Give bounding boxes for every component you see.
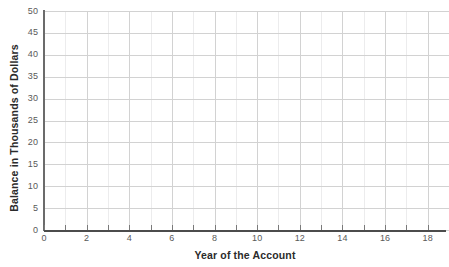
x-axis-tick-label: 8 — [203, 234, 227, 243]
x-axis-tick-label: 4 — [117, 234, 141, 243]
x-axis-tickmark — [342, 225, 343, 230]
y-axis-tick-label: 50 — [14, 7, 38, 16]
x-axis-tick-label: 14 — [330, 234, 354, 243]
x-axis-line — [44, 230, 446, 232]
x-axis-tickmark — [87, 225, 88, 230]
x-axis-tickmark — [428, 225, 429, 230]
x-axis-tickmark — [364, 225, 365, 230]
data-series-layer — [44, 11, 449, 230]
x-axis-title: Year of the Account — [44, 249, 446, 262]
x-axis-tickmark — [44, 225, 45, 230]
x-axis-tickmark — [321, 225, 322, 230]
x-axis-tick-label: 18 — [416, 234, 440, 243]
x-axis-tickmark — [406, 225, 407, 230]
x-axis-tick-label: 2 — [75, 234, 99, 243]
plot-area — [44, 11, 449, 230]
x-axis-tickmark — [385, 225, 386, 230]
x-axis-tickmark — [65, 225, 66, 230]
y-axis-title: Balance in Thousands of Dollars — [7, 19, 21, 238]
x-axis-tickmark — [257, 225, 258, 230]
chart-container: 05101520253035404550 024681012141618 Bal… — [0, 0, 449, 267]
y-axis-line — [43, 10, 45, 231]
x-axis-tickmark — [215, 225, 216, 230]
x-axis-tickmark — [172, 225, 173, 230]
x-axis-tick-label: 16 — [373, 234, 397, 243]
x-axis-tickmark — [129, 225, 130, 230]
x-axis-tickmark — [108, 225, 109, 230]
x-axis-tick-label: 6 — [160, 234, 184, 243]
x-axis-tickmark — [193, 225, 194, 230]
x-axis-tick-label: 0 — [32, 234, 56, 243]
x-axis-tick-label: 12 — [288, 234, 312, 243]
x-axis-tickmark — [236, 225, 237, 230]
x-axis-tickmark — [300, 225, 301, 230]
x-axis-tick-label: 10 — [245, 234, 269, 243]
clipped-chart-title — [44, 0, 446, 3]
x-axis-tickmark — [151, 225, 152, 230]
x-axis-tickmark — [278, 225, 279, 230]
